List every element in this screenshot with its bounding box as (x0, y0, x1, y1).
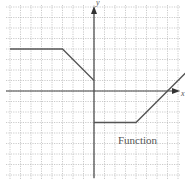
function-label: Function (118, 134, 158, 146)
function-graph: x y Function (0, 0, 185, 185)
function-segment (94, 70, 185, 123)
x-axis-arrow-icon (172, 88, 180, 94)
axes: x y (6, 0, 185, 178)
function-curve (10, 49, 185, 123)
x-axis-label: x (180, 89, 185, 98)
y-axis-arrow-icon (91, 6, 97, 14)
y-axis-label: y (95, 0, 100, 7)
